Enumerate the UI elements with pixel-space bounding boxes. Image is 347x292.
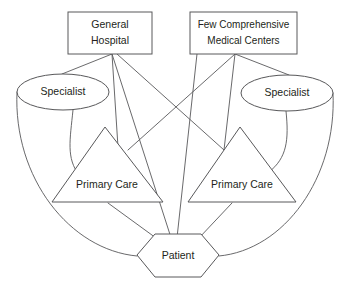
node-general-hospital[interactable]: General Hospital (68, 12, 152, 54)
edge-general-hospital-primary-care-left (112, 54, 118, 147)
edge-specialist-right-primary-care-right (269, 111, 287, 172)
node-specialist-left[interactable]: Specialist (17, 74, 109, 110)
edge-general-hospital-specialist-left (62, 54, 112, 74)
node-patient[interactable]: Patient (137, 234, 219, 277)
specialist-left-label: Specialist (41, 85, 86, 97)
diagram-canvas: General Hospital Few Comprehensive Medic… (0, 0, 347, 292)
primary-care-right-triangle[interactable] (188, 127, 296, 202)
node-primary-care-left[interactable]: Primary Care (52, 127, 163, 202)
edge-medical-centers-specialist-right (235, 54, 289, 75)
general-hospital-label-line2: Hospital (91, 34, 129, 46)
network-diagram: General Hospital Few Comprehensive Medic… (0, 0, 347, 292)
node-comprehensive-medical-centers[interactable]: Few Comprehensive Medical Centers (190, 12, 297, 54)
node-primary-care-right[interactable]: Primary Care (188, 127, 296, 202)
primary-care-left-triangle[interactable] (52, 127, 163, 202)
medical-centers-label-line2: Medical Centers (207, 35, 279, 46)
primary-care-right-label: Primary Care (211, 178, 273, 190)
specialist-right-label: Specialist (265, 86, 310, 98)
edge-primary-care-left-patient (108, 203, 156, 238)
edge-medical-centers-patient (176, 54, 197, 247)
primary-care-left-label: Primary Care (76, 178, 138, 190)
patient-label: Patient (162, 249, 195, 261)
general-hospital-label-line1: General (91, 18, 128, 30)
node-specialist-right[interactable]: Specialist (241, 75, 333, 111)
edge-medical-centers-primary-care-left (128, 54, 235, 150)
edge-medical-centers-primary-care-right (224, 54, 235, 150)
edge-general-hospital-primary-care-right (117, 54, 224, 150)
edge-primary-care-right-patient (199, 203, 232, 238)
medical-centers-label-line1: Few Comprehensive (198, 19, 290, 30)
